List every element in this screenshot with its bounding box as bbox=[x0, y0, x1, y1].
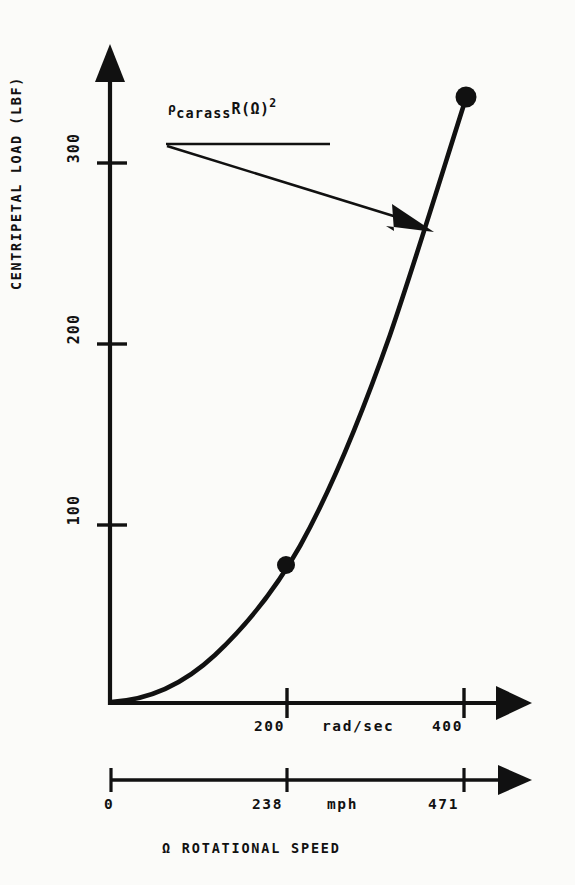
annotation-formula-label: ρcarassR(Ω)2 bbox=[168, 96, 277, 121]
x-axis-title: Ω ROTATIONAL SPEED bbox=[162, 840, 341, 856]
y-axis-arrowhead bbox=[95, 44, 125, 82]
x-axis-primary-units-label: rad/sec bbox=[322, 718, 394, 734]
y-tick-label-200: 200 bbox=[65, 303, 83, 355]
annotation-exponent: 2 bbox=[269, 96, 276, 110]
y-axis-title: CENTRIPETAL LOAD (LBF) bbox=[8, 0, 24, 290]
annotation-subscript: carass bbox=[176, 105, 231, 121]
data-point-low bbox=[277, 556, 295, 574]
x-tick-label-mph-238: 238 bbox=[252, 796, 283, 812]
annotation-leader-line bbox=[167, 146, 400, 218]
x-axis-secondary-units-label: mph bbox=[327, 796, 358, 812]
chart-canvas bbox=[0, 0, 575, 885]
x-tick-label-rad-200: 200 bbox=[254, 718, 285, 734]
y-tick-label-100: 100 bbox=[65, 484, 83, 536]
x-tick-label-rad-400: 400 bbox=[432, 718, 463, 734]
y-tick-label-300: 300 bbox=[65, 122, 83, 174]
x-tick-label-mph-0: 0 bbox=[104, 796, 114, 812]
data-point-high bbox=[456, 87, 477, 108]
x-axis-secondary-arrowhead bbox=[498, 765, 532, 795]
x-axis-primary-arrowhead bbox=[496, 686, 532, 720]
annotation-base: R(Ω) bbox=[232, 100, 270, 118]
figure-centripetal-load-chart: ρcarassR(Ω)2 CENTRIPETAL LOAD (LBF) 300 … bbox=[0, 0, 575, 885]
x-tick-label-mph-471: 471 bbox=[428, 796, 459, 812]
annotation-rho-symbol: ρ bbox=[168, 100, 176, 115]
data-curve bbox=[111, 98, 466, 702]
